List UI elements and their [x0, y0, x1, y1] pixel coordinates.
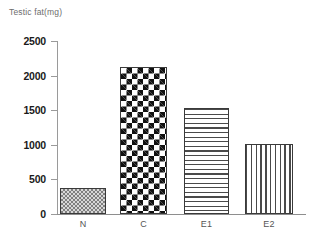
- bar-e2: [245, 144, 293, 214]
- bar-n: [60, 188, 106, 214]
- x-tick-label-e2: E2: [245, 220, 293, 229]
- y-tick-label: 2500: [23, 36, 46, 47]
- x-tick-label-c: C: [120, 220, 167, 229]
- x-tick-label-n: N: [60, 220, 106, 229]
- bar-chart: Testic fat(mg) 05001000150020002500 NCE1…: [0, 0, 313, 244]
- y-tick-mark: [51, 214, 57, 215]
- x-axis-line: [57, 214, 306, 215]
- bar-e1: [184, 108, 229, 214]
- y-tick-label: 500: [29, 174, 46, 185]
- y-tick-label: 0: [40, 209, 46, 220]
- chart-title: Testic fat(mg): [9, 7, 62, 17]
- y-tick-label: 1500: [23, 105, 46, 116]
- bar-c: [120, 67, 167, 214]
- plot-area: [57, 41, 305, 214]
- y-tick-label: 1000: [23, 140, 46, 151]
- y-tick-label: 2000: [23, 71, 46, 82]
- x-tick-label-e1: E1: [184, 220, 229, 229]
